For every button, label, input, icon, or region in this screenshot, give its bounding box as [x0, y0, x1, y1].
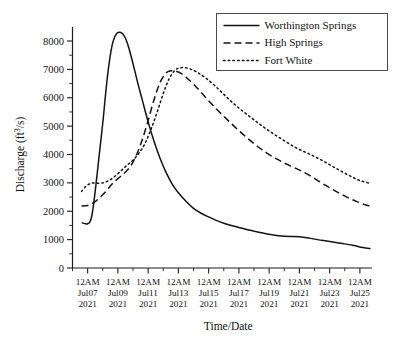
x-axis-title: Time/Date — [204, 320, 253, 332]
y-tick-label: 4000 — [43, 149, 64, 160]
x-tick-label-line: Jul17 — [229, 288, 249, 298]
x-tick-label-line: Jul23 — [320, 288, 340, 298]
x-tick-label-line: Jul21 — [289, 288, 309, 298]
x-tick-label-line: Jul25 — [350, 288, 370, 298]
x-tick-label-line: Jul19 — [259, 288, 279, 298]
x-tick-label-line: 12AM — [348, 277, 372, 287]
x-tick-label-line: 2021 — [109, 299, 128, 309]
y-axis-ticks — [67, 41, 73, 268]
x-tick-label-line: Jul15 — [199, 288, 219, 298]
y-axis-title: Discharge (ft3/s) — [13, 117, 27, 193]
x-axis-tick-labels: 12AMJul07202112AMJul09202112AMJul1120211… — [76, 277, 372, 309]
legend: Worthington SpringsHigh SpringsFort Whit… — [217, 14, 388, 71]
legend-label: Fort White — [265, 54, 313, 66]
x-tick-label-line: 2021 — [139, 299, 158, 309]
x-tick-label-line: 12AM — [318, 277, 342, 287]
x-tick-label-line: 12AM — [136, 277, 160, 287]
y-axis-tick-labels: 010002000300040005000600070008000 — [43, 36, 64, 274]
x-tick-label-line: 12AM — [287, 277, 311, 287]
x-tick-label-line: 2021 — [78, 299, 97, 309]
x-tick-label-line: Jul09 — [108, 288, 128, 298]
x-tick-label-line: 12AM — [76, 277, 100, 287]
y-tick-label: 8000 — [43, 36, 64, 47]
x-tick-label-line: 12AM — [197, 277, 221, 287]
x-tick-label-line: 2021 — [290, 299, 309, 309]
y-tick-label: 2000 — [43, 206, 64, 217]
legend-label: High Springs — [265, 36, 323, 48]
y-tick-label: 0 — [59, 263, 64, 274]
x-tick-label-line: 2021 — [260, 299, 279, 309]
y-tick-label: 1000 — [43, 234, 64, 245]
x-tick-label-line: 12AM — [106, 277, 130, 287]
x-tick-label-line: Jul07 — [78, 288, 98, 298]
x-tick-label-line: 12AM — [166, 277, 190, 287]
x-tick-label-line: 2021 — [199, 299, 218, 309]
line-chart-canvas: 010002000300040005000600070008000 12AMJu… — [0, 0, 394, 348]
x-tick-label-line: Jul11 — [138, 288, 158, 298]
y-tick-label: 7000 — [43, 64, 64, 75]
series-high-springs — [82, 71, 371, 207]
x-tick-label-line: Jul13 — [168, 288, 188, 298]
chart-figure: 010002000300040005000600070008000 12AMJu… — [0, 0, 394, 348]
x-tick-label-line: 12AM — [257, 277, 281, 287]
x-tick-label-line: 12AM — [227, 277, 251, 287]
x-tick-label-line: 2021 — [351, 299, 370, 309]
x-tick-label-line: 2021 — [320, 299, 339, 309]
y-tick-label: 3000 — [43, 177, 64, 188]
y-tick-label: 6000 — [43, 92, 64, 103]
x-tick-label-line: 2021 — [169, 299, 188, 309]
y-tick-label: 5000 — [43, 121, 64, 132]
legend-label: Worthington Springs — [265, 19, 357, 31]
x-tick-label-line: 2021 — [230, 299, 249, 309]
x-axis-ticks — [73, 268, 360, 274]
